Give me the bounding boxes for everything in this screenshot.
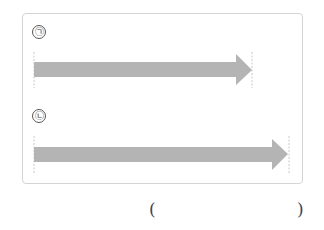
answer-blank[interactable] [160,200,294,220]
arrow-giyeok [34,54,252,85]
arrows-diagram [0,0,324,230]
answer-close-paren: ) [297,199,304,219]
answer-open-paren: ( [149,199,156,219]
arrow-nieun [34,139,288,170]
